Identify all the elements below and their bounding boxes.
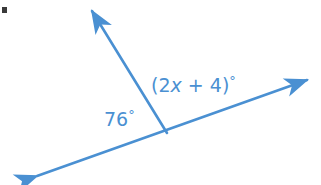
coefficient: 2 bbox=[158, 74, 170, 96]
angle-label-left: 76° bbox=[104, 110, 135, 129]
angle-label-left-value: 76 bbox=[104, 108, 128, 130]
angle-label-right: (2x + 4)° bbox=[151, 76, 236, 95]
degree-symbol-icon: ° bbox=[128, 107, 135, 122]
variable-x: x bbox=[171, 74, 182, 96]
degree-symbol-icon: ° bbox=[229, 73, 236, 88]
constant: 4 bbox=[210, 74, 222, 96]
geometry-figure-canvas: 76° (2x + 4)° bbox=[0, 0, 321, 185]
plus-operator: + bbox=[188, 74, 204, 96]
